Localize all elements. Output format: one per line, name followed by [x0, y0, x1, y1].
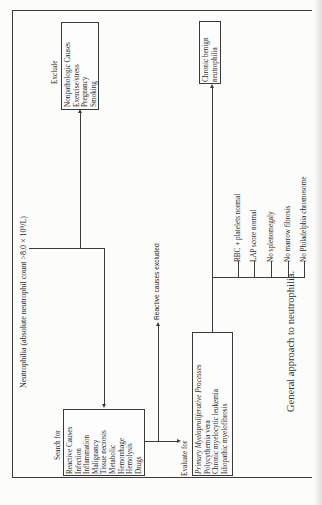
outcome-connector: [212, 88, 213, 332]
evaluate-item: Polycythemia vera: [204, 364, 213, 474]
exclude-item: Smoking: [90, 42, 99, 107]
search-out-line: [145, 441, 177, 442]
search-item: Drugs: [135, 427, 144, 474]
search-item: Hemolysis: [126, 427, 135, 474]
root-label: Neutrophilia (absolute neutrophil count …: [20, 216, 29, 388]
frame-top: [12, 10, 312, 11]
criteria-tick: [271, 261, 272, 277]
search-item: Hemorrhage: [118, 427, 127, 474]
outcome-arrow-icon: [210, 84, 214, 88]
exclude-item: Exercise/stress: [73, 42, 82, 107]
search-item: Metabolic: [109, 427, 118, 474]
reactive-excluded-label: Reactive causes excluded: [153, 243, 162, 320]
search-item: Infection: [75, 427, 84, 474]
trunk-line: [29, 248, 105, 249]
criteria-item: LAP score normal: [250, 210, 259, 262]
figure-caption: General approach to neutrophilia.: [285, 271, 297, 412]
criteria-item: RBC + platelets normal: [234, 194, 243, 262]
reactive-excluded-connector: [158, 326, 159, 442]
evaluate-item: Primary Myeloproliferative Processes: [195, 364, 204, 474]
search-item: Malignancy: [92, 427, 101, 474]
criteria-item: No Philadelphia chromosome: [300, 177, 309, 262]
search-box: Reactive Causes Infection Inflammation M…: [63, 409, 145, 476]
reactive-excluded-arrow-icon: [156, 322, 160, 326]
criteria-item: No marrow fibrosis: [284, 206, 293, 262]
criteria-tick: [304, 261, 305, 277]
evaluate-items: Primary Myeloproliferative Processes Pol…: [195, 364, 229, 474]
exclude-item: Pregnancy: [81, 42, 90, 107]
root-text: Neutrophilia (absolute neutrophil count …: [19, 216, 28, 388]
evaluate-item: Idiopathic myelofibrosis: [221, 364, 230, 474]
criteria-item: No splenomegaly: [267, 211, 276, 262]
scanned-page: Neutrophilia (absolute neutrophil count …: [0, 0, 322, 505]
frame-left: [12, 10, 13, 478]
search-item: Tissue necrosis: [100, 427, 109, 474]
evaluate-box: Primary Myeloproliferative Processes Pol…: [192, 332, 233, 476]
search-connector: [104, 248, 105, 405]
evaluate-label: Evaluate for: [181, 441, 190, 476]
criteria-tick: [254, 261, 255, 277]
exclude-connector: [80, 113, 81, 249]
frame-bottom: [12, 477, 312, 478]
criteria-tick: [238, 261, 239, 277]
exclude-box: Nonpathologic Causes Exercise/stress Pre…: [61, 22, 99, 110]
evaluate-item: Chronic myelocytic leukemia: [212, 364, 221, 474]
outcome-box: Chronic benign neutrophilia: [199, 21, 221, 84]
exclude-items: Nonpathologic Causes Exercise/stress Pre…: [64, 42, 98, 107]
search-arrow-icon: [102, 404, 106, 408]
page-edge-shadow: [314, 0, 322, 505]
search-label: Search for: [54, 430, 63, 460]
exclude-item: Nonpathologic Causes: [64, 42, 73, 107]
search-item: Reactive Causes: [66, 427, 75, 474]
exclude-label: Exclude: [51, 60, 60, 84]
outcome-text: Chronic benign neutrophilia: [202, 37, 219, 82]
search-item: Inflammation: [83, 427, 92, 474]
search-items: Reactive Causes Infection Inflammation M…: [66, 427, 143, 474]
